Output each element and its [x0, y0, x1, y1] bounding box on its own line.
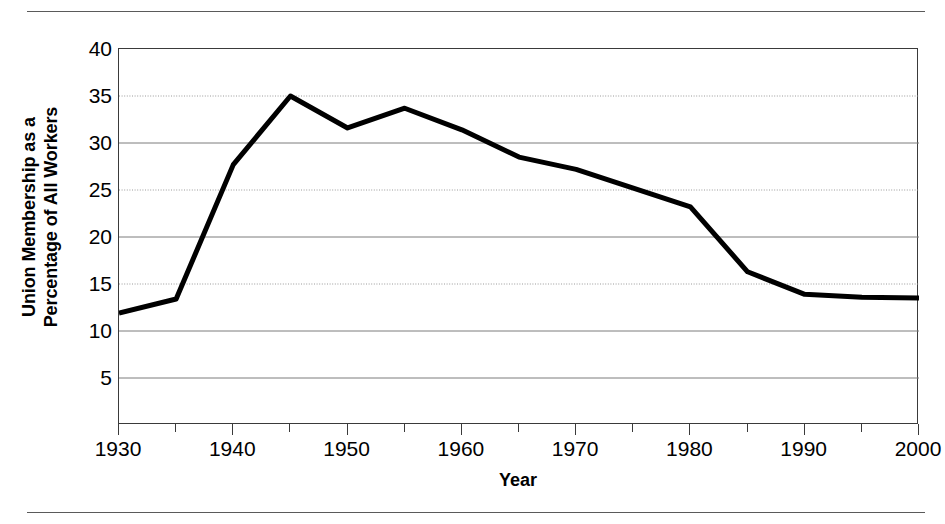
x-tick-1955 [404, 424, 405, 432]
x-tick-1940 [232, 424, 233, 435]
x-tick-label-1970: 1970 [552, 438, 599, 459]
y-tick-label-40: 40 [70, 38, 112, 59]
y-axis-title: Union Membership as a Percentage of All … [15, 67, 67, 367]
y-tick-label-15: 15 [70, 273, 112, 294]
y-axis-tick-labels: 510152025303540 [70, 48, 112, 424]
plot-svg [119, 49, 919, 425]
top-horizontal-rule [27, 11, 925, 12]
plot-area [118, 48, 918, 424]
x-axis-tick-labels: 19301940195019601970198019902000 [118, 438, 918, 468]
x-tick-1995 [861, 424, 862, 432]
y-tick-label-5: 5 [70, 367, 112, 388]
y-tick-label-35: 35 [70, 85, 112, 106]
x-tick-label-1940: 1940 [209, 438, 256, 459]
x-tick-label-1980: 1980 [666, 438, 713, 459]
bottom-horizontal-rule [27, 512, 925, 513]
x-tick-1930 [118, 424, 119, 435]
y-tick-label-25: 25 [70, 179, 112, 200]
x-tick-1960 [461, 424, 462, 435]
x-axis-ticks [118, 424, 918, 436]
x-tick-label-1990: 1990 [780, 438, 827, 459]
x-tick-label-1930: 1930 [95, 438, 142, 459]
x-tick-1950 [347, 424, 348, 435]
x-tick-label-2000: 2000 [895, 438, 942, 459]
x-tick-1975 [632, 424, 633, 432]
x-axis-title: Year [118, 470, 918, 491]
y-tick-label-30: 30 [70, 132, 112, 153]
x-tick-label-1950: 1950 [323, 438, 370, 459]
x-tick-1980 [689, 424, 690, 435]
x-tick-1935 [175, 424, 176, 432]
x-tick-label-1960: 1960 [438, 438, 485, 459]
x-tick-1945 [289, 424, 290, 432]
y-axis-title-line-2: Percentage of All Workers [41, 107, 63, 328]
x-tick-1970 [575, 424, 576, 435]
gridlines [119, 96, 919, 378]
data-series-group [119, 96, 919, 313]
x-tick-1985 [747, 424, 748, 432]
x-tick-1965 [518, 424, 519, 432]
y-axis-title-line-1: Union Membership as a [19, 117, 41, 317]
x-tick-2000 [918, 424, 919, 435]
series-line-0 [119, 96, 919, 313]
chart-figure: Union Membership as a Percentage of All … [0, 0, 945, 524]
y-tick-label-10: 10 [70, 320, 112, 341]
y-tick-label-20: 20 [70, 226, 112, 247]
x-tick-1990 [804, 424, 805, 435]
